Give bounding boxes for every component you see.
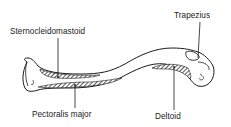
clavicle-diagram: Sternocleidomastoid Trapezius Pectoralis…	[0, 0, 231, 127]
label-pectoralis-major: Pectoralis major	[32, 111, 92, 119]
label-sternocleidomastoid: Sternocleidomastoid	[10, 28, 85, 36]
label-deltoid: Deltoid	[155, 113, 181, 121]
label-trapezius: Trapezius	[174, 12, 210, 20]
deltoid-attachment	[152, 64, 191, 79]
